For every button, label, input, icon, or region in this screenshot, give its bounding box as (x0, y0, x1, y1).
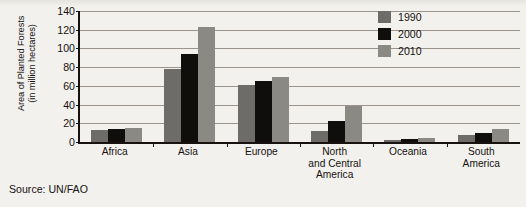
category-label-line: Asia (151, 146, 224, 158)
y-axis-tick-label: 80 (63, 61, 75, 73)
legend-item: 1990 (378, 11, 422, 23)
category-label-line: Africa (78, 146, 151, 158)
x-axis-category-label: SouthAmerica (445, 146, 518, 181)
bar (108, 129, 125, 142)
x-axis-category-label: Oceania (371, 146, 444, 181)
legend-item: 2010 (378, 45, 422, 57)
category-label-line: America (298, 169, 371, 181)
y-axis-tick-label: 0 (69, 136, 75, 148)
x-axis-category-label: Africa (78, 146, 151, 181)
y-axis-tick-label: 100 (57, 42, 75, 54)
y-axis-tick-label: 40 (63, 99, 75, 111)
bar (345, 106, 362, 142)
y-axis-tick-label: 20 (63, 117, 75, 129)
bar-groups (80, 11, 520, 142)
y-axis-tick-label: 120 (57, 24, 75, 36)
legend-label: 2000 (398, 28, 422, 40)
bar-group (227, 11, 300, 142)
bar (328, 121, 345, 142)
x-axis-category-label: Northand CentralAmerica (298, 146, 371, 181)
bar-group (80, 11, 153, 142)
bar-group (153, 11, 226, 142)
bar (401, 139, 418, 142)
bar (384, 140, 401, 142)
legend-label: 2010 (398, 45, 422, 57)
category-label-line: Oceania (371, 146, 444, 158)
bar (181, 54, 198, 142)
bar (458, 135, 475, 142)
plot-area: 020406080100120140 (78, 11, 520, 144)
legend-item: 2000 (378, 28, 422, 40)
bar (418, 138, 435, 142)
bar (255, 81, 272, 142)
y-axis-tick-label: 60 (63, 80, 75, 92)
source-note: Source: UN/FAO (9, 183, 88, 195)
category-label-line: Europe (225, 146, 298, 158)
category-label-line: North (298, 146, 371, 158)
bar (272, 77, 289, 142)
y-axis-tick-label: 140 (57, 5, 75, 17)
bar-group (300, 11, 373, 142)
y-axis-title-line-1: Area of Planted Forests (16, 0, 27, 133)
y-axis-title: Area of Planted Forests (in million hect… (16, 0, 39, 133)
legend-color-swatch (378, 45, 391, 57)
x-axis-category-label: Asia (151, 146, 224, 181)
bar (492, 129, 509, 142)
y-axis-title-line-2: (in million hectares) (27, 0, 38, 133)
planted-forests-bar-chart: Area of Planted Forests (in million hect… (0, 0, 526, 207)
category-label-line: America (445, 158, 518, 170)
bar (238, 85, 255, 142)
bar (125, 128, 142, 142)
legend-label: 1990 (398, 11, 422, 23)
bar (198, 27, 215, 142)
category-label-line: South (445, 146, 518, 158)
legend-color-swatch (378, 11, 391, 23)
x-axis-category-label: Europe (225, 146, 298, 181)
bar (311, 131, 328, 142)
y-axis-tick-mark (76, 142, 80, 143)
category-label-line: and Central (298, 158, 371, 170)
chart-legend: 199020002010 (378, 11, 422, 57)
bar (91, 130, 108, 142)
bar (164, 69, 181, 142)
bar-group (447, 11, 520, 142)
x-axis-category-labels: AfricaAsiaEuropeNorthand CentralAmericaO… (78, 146, 518, 181)
legend-color-swatch (378, 28, 391, 40)
bar (475, 133, 492, 142)
